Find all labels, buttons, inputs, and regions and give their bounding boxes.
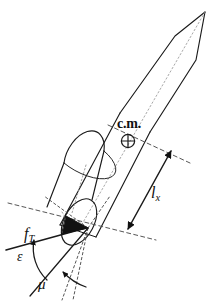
rocket-nose-cone <box>120 12 205 132</box>
angle-epsilon-label: ε <box>17 249 23 265</box>
angle-arc-mu <box>63 272 86 287</box>
rocket-thrust-geometry-figure: c.m. fT lx ε μ <box>0 0 213 305</box>
angle-mu-label: μ <box>38 276 46 293</box>
body-centerline <box>78 12 205 231</box>
angle-arc-epsilon <box>33 240 47 280</box>
center-of-mass-label: c.m. <box>117 116 141 132</box>
figure-canvas <box>0 0 213 305</box>
thrust-force-label: fT <box>24 225 34 244</box>
moment-arm-label: lx <box>151 184 160 203</box>
thrust-force-subscript: T <box>28 233 34 244</box>
booster-cylinder <box>47 131 116 251</box>
center-of-mass-icon <box>121 134 134 147</box>
moment-arm-subscript: x <box>155 192 160 203</box>
